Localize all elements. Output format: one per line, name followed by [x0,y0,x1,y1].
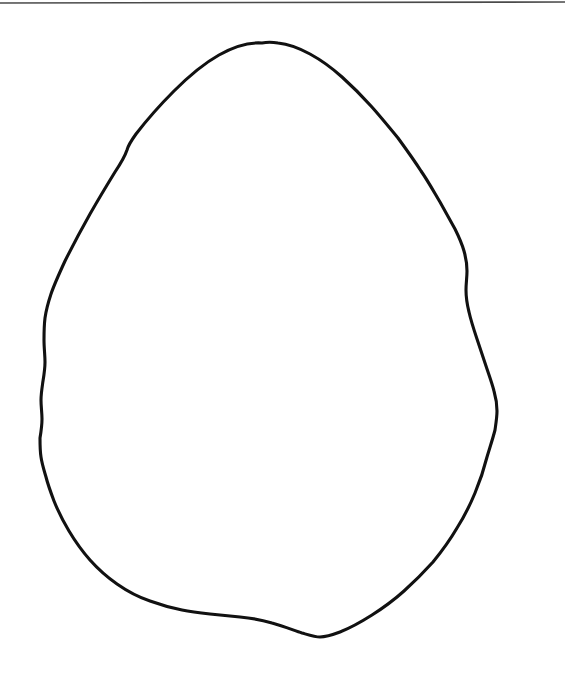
drawing-page [0,0,565,678]
scanned-drawing-canvas [0,0,565,678]
horizontal-rule [0,2,565,3]
